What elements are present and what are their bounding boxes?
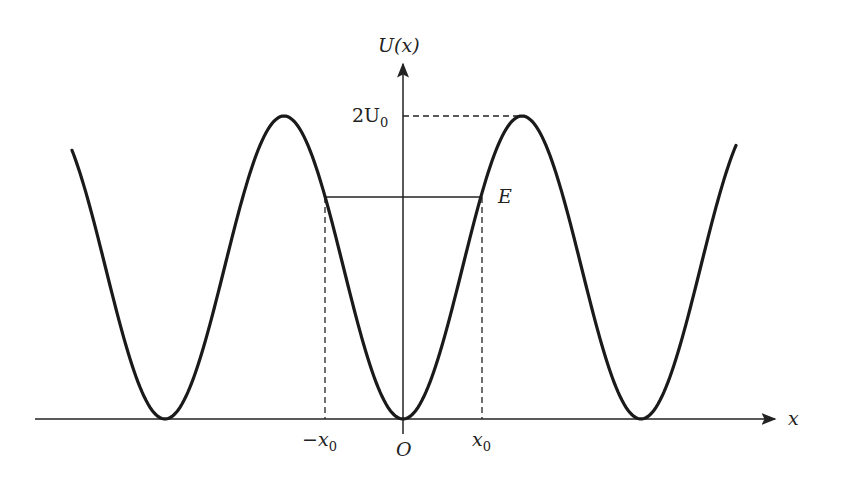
- potential-curve: [72, 116, 736, 419]
- pos-x0-label: x0: [472, 428, 491, 454]
- neg-x0-label: −x0: [302, 428, 337, 454]
- y-axis-label: U(x): [378, 34, 420, 56]
- potential-diagram: U(x) x O E 2U0 −x0 x0: [0, 0, 841, 482]
- origin-label: O: [396, 438, 412, 460]
- energy-label: E: [497, 185, 512, 207]
- x-axis-label: x: [788, 407, 799, 429]
- peak-value-label: 2U0: [352, 104, 388, 130]
